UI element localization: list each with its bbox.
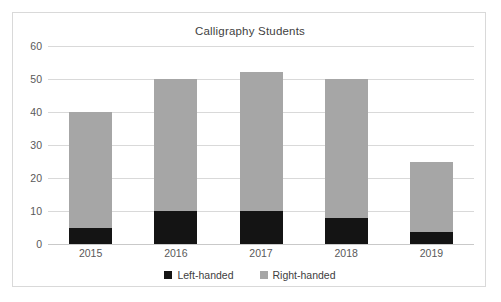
bar-stack[interactable]	[154, 79, 197, 244]
x-axis-tick-labels: 20152016201720182019	[48, 247, 474, 259]
y-axis-tick-label: 50	[15, 73, 42, 85]
bar-segment-left-handed[interactable]	[240, 211, 283, 244]
legend-swatch-icon	[260, 271, 268, 279]
bar-segment-right-handed[interactable]	[154, 79, 197, 211]
chart-title: Calligraphy Students	[13, 25, 487, 37]
bar-segment-right-handed[interactable]	[69, 112, 112, 228]
bar-stack[interactable]	[69, 112, 112, 244]
x-axis-tick-label-2018: 2018	[304, 247, 389, 259]
y-axis-tick-label: 30	[15, 139, 42, 151]
bar-slot-2017	[218, 46, 303, 244]
legend-label: Left-handed	[177, 269, 233, 281]
bar-slot-2019	[389, 46, 474, 244]
bar-segment-right-handed[interactable]	[325, 79, 368, 218]
bar-stack[interactable]	[240, 72, 283, 244]
legend-item-right-handed[interactable]: Right-handed	[260, 269, 336, 281]
gridline-0	[48, 244, 474, 245]
bar-segment-left-handed[interactable]	[69, 228, 112, 245]
bars-layer	[48, 46, 474, 244]
legend-label: Right-handed	[273, 269, 336, 281]
x-axis-tick-label-2015: 2015	[48, 247, 133, 259]
bar-stack[interactable]	[410, 162, 453, 244]
y-axis-tick-label: 10	[15, 205, 42, 217]
bar-slot-2016	[133, 46, 218, 244]
legend-swatch-icon	[164, 271, 172, 279]
y-axis-tick-label: 60	[15, 40, 42, 52]
bar-segment-left-handed[interactable]	[410, 232, 453, 244]
y-axis-tick-label: 0	[15, 238, 42, 250]
chart-frame: Calligraphy Students 0102030405060 20152…	[12, 12, 486, 287]
y-axis-tick-label: 40	[15, 106, 42, 118]
x-axis-tick-label-2019: 2019	[389, 247, 474, 259]
bar-segment-right-handed[interactable]	[410, 162, 453, 233]
x-axis-tick-label-2017: 2017	[218, 247, 303, 259]
bar-slot-2018	[304, 46, 389, 244]
bar-stack[interactable]	[325, 79, 368, 244]
x-axis-tick-label-2016: 2016	[133, 247, 218, 259]
bar-segment-right-handed[interactable]	[240, 72, 283, 211]
bar-segment-left-handed[interactable]	[154, 211, 197, 244]
bar-slot-2015	[48, 46, 133, 244]
y-axis-tick-label: 20	[15, 172, 42, 184]
legend-item-left-handed[interactable]: Left-handed	[164, 269, 233, 281]
chart-legend: Left-handedRight-handed	[13, 269, 487, 281]
bar-segment-left-handed[interactable]	[325, 218, 368, 244]
